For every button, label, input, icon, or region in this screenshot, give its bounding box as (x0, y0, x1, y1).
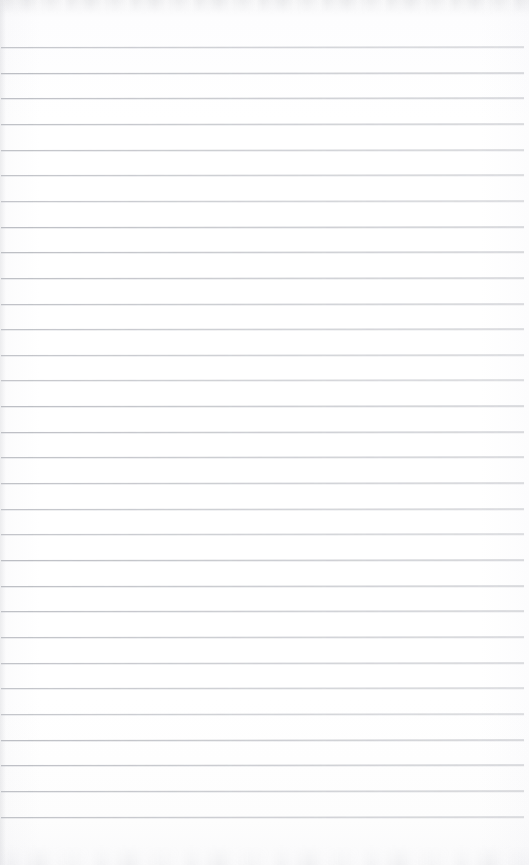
ruled-line (1, 534, 524, 536)
ruled-line (1, 277, 524, 279)
ruled-line (1, 585, 524, 587)
ruled-line (1, 559, 524, 561)
ruled-line (1, 354, 524, 356)
ruled-line (1, 790, 524, 792)
ruled-line (1, 46, 524, 48)
ruled-line (1, 329, 524, 331)
ruled-line (1, 688, 524, 690)
ruled-line (1, 200, 524, 202)
ruled-line (1, 713, 524, 715)
ruled-line (1, 303, 524, 305)
ruled-line (1, 175, 524, 177)
ruled-line (1, 739, 524, 741)
ruled-line (1, 380, 524, 382)
ruled-lines-layer (0, 0, 529, 865)
ruled-line (1, 816, 524, 818)
ruled-line (1, 508, 524, 510)
notepad-page (0, 0, 529, 865)
ruled-line (1, 149, 524, 151)
ruled-line (1, 252, 524, 254)
ruled-line (1, 636, 524, 638)
ruled-line (1, 123, 524, 125)
ruled-line (1, 72, 524, 74)
ruled-line (1, 406, 524, 408)
ruled-line (1, 482, 524, 484)
ruled-line (1, 611, 524, 613)
ruled-line (1, 662, 524, 664)
ruled-line (1, 765, 524, 767)
ruled-line (1, 226, 524, 228)
ruled-line (1, 431, 524, 433)
ruled-line (1, 98, 524, 100)
ruled-line (1, 457, 524, 459)
